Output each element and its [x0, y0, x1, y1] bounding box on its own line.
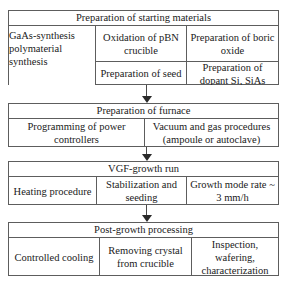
cell-label: Removing crystal from crucible: [102, 244, 189, 270]
cell-preparation-of-seed: Preparation of seed: [96, 62, 186, 85]
cell-removing-crystal-from-crucible: Removing crystal from crucible: [99, 238, 191, 276]
cell-label: Vacuum and gas procedures (ampoule or au…: [147, 120, 276, 146]
cell-oxidation-of-pbn-crucible: Oxidation of pBN crucible: [96, 26, 186, 61]
arrow-down-icon-furnace-to-growth: [141, 147, 153, 161]
cell-label: Oxidation of pBN crucible: [98, 31, 184, 57]
cell-heating-procedure: Heating procedure: [9, 177, 96, 205]
cell-label: Heating procedure: [11, 185, 94, 198]
arrow-down-icon-growth-to-post: [141, 205, 153, 222]
cell-growth-mode-rate: Growth mode rate ~ 3 mm/h: [186, 177, 278, 205]
cell-preparation-of-boric-oxide: Preparation of boric oxide: [186, 26, 278, 61]
stage-preparation-of-starting-materials: Preparation of starting materials GaAs-s…: [8, 10, 279, 85]
stage-title-vgf-growth-run: VGF-growth run: [9, 162, 278, 177]
arrow-head: [142, 154, 152, 161]
table-row: Heating procedure Stabilization and seed…: [9, 177, 278, 205]
cell-preparation-of-dopant: Preparation of dopant Si, SiAs: [186, 62, 278, 85]
cell-label: Inspection, wafering, characterization: [194, 238, 276, 276]
cell-label: Programming of power controllers: [11, 120, 142, 146]
arrow-down-icon-materials-to-furnace: [141, 85, 153, 103]
stage-title-preparation-of-starting-materials: Preparation of starting materials: [9, 11, 278, 26]
cell-label: Preparation of boric oxide: [189, 31, 276, 57]
arrow-head: [142, 215, 152, 222]
cell-stabilization-and-seeding: Stabilization and seeding: [96, 177, 186, 205]
stage-vgf-growth-run: VGF-growth run Heating procedure Stabili…: [8, 161, 279, 205]
cell-controlled-cooling: Controlled cooling: [9, 238, 99, 276]
stage-title-post-growth-processing: Post-growth processing: [9, 223, 278, 238]
table-row: Programming of power controllers Vacuum …: [9, 119, 278, 147]
cell-label: Stabilization and seeding: [99, 178, 184, 204]
cell-vacuum-and-gas-procedures: Vacuum and gas procedures (ampoule or au…: [144, 119, 278, 147]
table-row: Controlled cooling Removing crystal from…: [9, 238, 278, 276]
cell-label: Preparation of dopant Si, SiAs: [189, 62, 276, 85]
cell-label: Preparation of seed: [98, 67, 184, 80]
table-row: Preparation of seed Preparation of dopan…: [96, 62, 279, 85]
process-flowchart: Preparation of starting materials GaAs-s…: [0, 0, 286, 284]
cell-label: Controlled cooling: [11, 251, 97, 264]
cell-gaas-synthesis: GaAs-synthesis polymaterial synthesis: [9, 26, 96, 85]
cell-programming-of-power-controllers: Programming of power controllers: [9, 119, 144, 147]
stage-1-right-column-group: Oxidation of pBN crucible Preparation of…: [96, 26, 279, 85]
arrow-head: [142, 96, 152, 103]
cell-inspection-wafering-characterization: Inspection, wafering, characterization: [191, 238, 278, 276]
cell-label: GaAs-synthesis polymaterial synthesis: [9, 29, 95, 68]
cell-label: Growth mode rate ~ 3 mm/h: [189, 178, 276, 204]
stage-post-growth-processing: Post-growth processing Controlled coolin…: [8, 222, 279, 276]
table-row: Oxidation of pBN crucible Preparation of…: [96, 26, 279, 62]
stage-title-preparation-of-furnace: Preparation of furnace: [9, 104, 278, 119]
stage-preparation-of-furnace: Preparation of furnace Programming of po…: [8, 103, 279, 147]
